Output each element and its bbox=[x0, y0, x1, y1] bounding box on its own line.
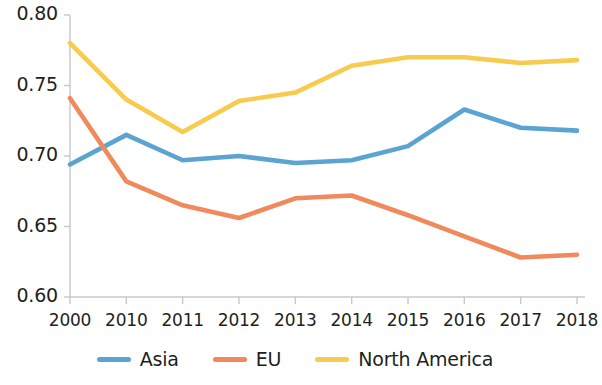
series-line-north-america bbox=[70, 43, 577, 132]
legend-label: EU bbox=[256, 348, 282, 370]
legend-label: North America bbox=[358, 348, 493, 370]
y-tick-label: 0.65 bbox=[0, 214, 58, 236]
legend-item-asia[interactable]: Asia bbox=[97, 348, 179, 370]
legend-item-eu[interactable]: EU bbox=[213, 348, 282, 370]
y-tick-label: 0.80 bbox=[0, 2, 58, 24]
legend-swatch-icon bbox=[315, 357, 349, 362]
legend-swatch-icon bbox=[213, 357, 247, 362]
series-lines bbox=[70, 43, 577, 257]
legend-item-north-america[interactable]: North America bbox=[315, 348, 493, 370]
legend-swatch-icon bbox=[97, 357, 131, 362]
y-tick-label: 0.75 bbox=[0, 73, 58, 95]
y-tick-label: 0.70 bbox=[0, 143, 58, 165]
chart-legend: AsiaEUNorth America bbox=[0, 348, 590, 370]
legend-label: Asia bbox=[140, 348, 179, 370]
y-tick-label: 0.60 bbox=[0, 284, 58, 306]
series-line-asia bbox=[70, 109, 577, 164]
x-tick-label: 2018 bbox=[542, 310, 602, 330]
